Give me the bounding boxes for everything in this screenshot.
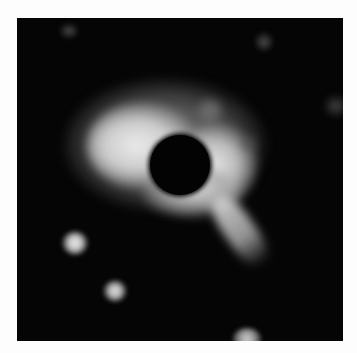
image-frame: [17, 18, 343, 341]
point-source-1: [62, 231, 88, 255]
emission-knot: [199, 100, 221, 122]
emission-tail: [205, 189, 275, 272]
faint-source-2: [62, 26, 76, 36]
point-source-2: [103, 280, 127, 302]
faint-source-3: [327, 98, 343, 114]
point-source-3: [233, 328, 261, 341]
central-occulter: [150, 135, 210, 195]
faint-source-1: [257, 35, 271, 49]
faint-source-4: [242, 136, 256, 150]
